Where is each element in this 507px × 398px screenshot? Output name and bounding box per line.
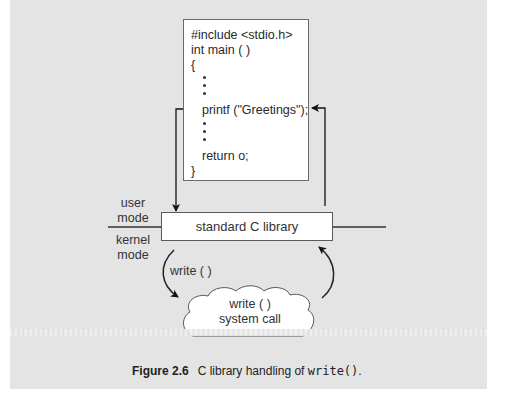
library-to-printf-arrow <box>312 108 325 206</box>
cloud-line1: write ( ) <box>190 297 310 312</box>
figure-caption: Figure 2.6C library handling of write(). <box>132 364 362 378</box>
caption-suffix: . <box>358 364 361 378</box>
user-mode-line1: user <box>108 196 158 211</box>
user-mode-line2: mode <box>108 211 158 226</box>
kernel-mode-line2: mode <box>108 248 158 263</box>
code-line-main: int main ( ) <box>191 43 250 57</box>
ellipsis-dot <box>203 130 206 133</box>
scan-artifact-band <box>10 329 487 336</box>
ellipsis-dot <box>203 138 206 141</box>
ellipsis-dot <box>203 84 206 87</box>
ellipsis-dot <box>203 76 206 79</box>
library-label: standard C library <box>196 219 299 234</box>
caption-text: C library handling of <box>198 364 308 378</box>
kernel-mode-label: kernel mode <box>108 233 158 263</box>
system-call-cloud-text: write ( ) system call <box>190 297 310 327</box>
code-line-printf: printf ("Greetings"); <box>202 103 308 117</box>
code-line-close-brace: } <box>191 164 195 178</box>
return-curved-arrow <box>319 247 334 298</box>
standard-c-library-box: standard C library <box>161 212 333 241</box>
code-line-include: #include <stdio.h> <box>191 28 292 42</box>
ellipsis-dot <box>203 122 206 125</box>
figure-number: Figure 2.6 <box>132 364 189 378</box>
code-listing-box: #include <stdio.h> int main ( ) { printf… <box>183 19 309 181</box>
write-call-label: write ( ) <box>170 264 212 278</box>
cloud-line2: system call <box>190 312 310 327</box>
user-mode-label: user mode <box>108 196 158 226</box>
kernel-mode-line1: kernel <box>108 233 158 248</box>
code-line-open-brace: { <box>191 58 195 72</box>
ellipsis-dot <box>203 92 206 95</box>
caption-code: write() <box>308 364 359 378</box>
code-line-return: return o; <box>202 149 249 163</box>
